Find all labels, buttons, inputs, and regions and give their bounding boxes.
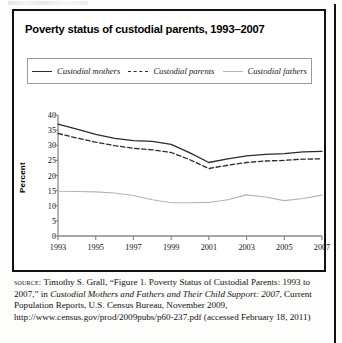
legend-item-custodial-mothers: Custodial mothers [32,66,120,76]
chart-legend: Custodial mothers Custodial parents Cust… [27,58,312,84]
legend-swatch-dashed-icon [128,68,148,75]
legend-label-custodial-fathers: Custodial fathers [248,66,307,76]
legend-item-custodial-parents: Custodial parents [128,66,214,76]
figure-page: Poverty status of custodial parents, 199… [0,0,342,343]
legend-label-custodial-parents: Custodial parents [153,66,214,76]
source-label: source: [14,277,41,287]
figure-box: Poverty status of custodial parents, 199… [12,9,326,272]
figure-title: Poverty status of custodial parents, 199… [25,23,265,35]
legend-swatch-solid-light-icon [223,68,243,75]
right-vertical-rule [334,4,336,343]
series-line [58,124,322,162]
source-italic-title: Custodial Mothers and Fathers and Their … [50,289,279,299]
page-top-artifact [8,1,88,5]
plot-area: Percent 0510152025303540 199319951997199… [14,89,324,270]
legend-item-custodial-fathers: Custodial fathers [223,66,307,76]
legend-label-custodial-mothers: Custodial mothers [57,66,120,76]
line-chart [14,89,334,274]
source-note: source: Timothy S. Grall, “Figure 1. Pov… [14,277,322,323]
series-line [58,191,322,202]
legend-swatch-solid-dark-icon [32,68,52,75]
series-line [58,133,322,168]
